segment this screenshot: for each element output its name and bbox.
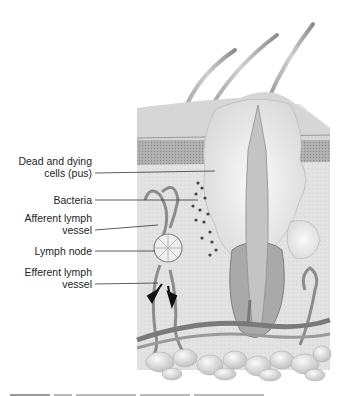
label-bacteria: Bacteria	[10, 194, 92, 206]
label-bacteria-text: Bacteria	[10, 194, 92, 206]
label-efferent-line1: Efferent lymph	[10, 266, 92, 278]
label-pus-line1: Dead and dying	[10, 155, 92, 167]
lymph-node	[154, 234, 182, 262]
label-pus: Dead and dying cells (pus)	[10, 155, 92, 179]
label-efferent-lymph-vessel: Efferent lymph vessel	[10, 266, 92, 290]
label-afferent-line2: vessel	[10, 224, 92, 236]
figure-caption-cropped	[10, 386, 310, 392]
label-afferent-line1: Afferent lymph	[10, 212, 92, 224]
label-efferent-line2: vessel	[10, 278, 92, 290]
label-lymph-node: Lymph node	[10, 245, 92, 257]
label-lymph-node-text: Lymph node	[10, 245, 92, 257]
label-pus-line2: cells (pus)	[10, 167, 92, 179]
label-afferent-lymph-vessel: Afferent lymph vessel	[10, 212, 92, 236]
